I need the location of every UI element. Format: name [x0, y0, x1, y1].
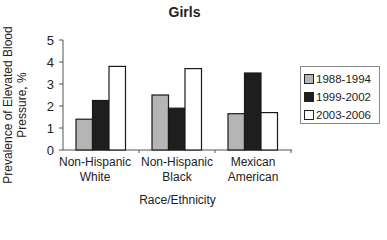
bar-non-hispanic-white-1999-2002 — [93, 101, 110, 151]
category-label-non-hispanic-white: Non-HispanicWhite — [50, 155, 140, 185]
legend-item-2003-2006: 2003-2006 — [304, 106, 379, 124]
bar-non-hispanic-black-1988-1994 — [152, 95, 169, 150]
bar-non-hispanic-white-1988-1994 — [76, 119, 93, 150]
legend-item-1999-2002: 1999-2002 — [304, 88, 379, 106]
y-tick-label: 5 — [47, 33, 54, 48]
legend-swatch — [304, 110, 314, 120]
legend-swatch — [304, 74, 314, 84]
bar-mexican-american-2003-2006 — [261, 113, 278, 150]
legend: 1988-1994 1999-2002 2003-2006 — [300, 66, 380, 124]
bar-non-hispanic-black-2003-2006 — [185, 69, 202, 150]
y-tick-label: 1 — [47, 121, 54, 136]
y-tick-label: 4 — [47, 55, 54, 70]
y-tick-label: 2 — [47, 99, 54, 114]
bar-mexican-american-1988-1994 — [228, 114, 245, 150]
bar-non-hispanic-black-1999-2002 — [169, 108, 186, 150]
legend-swatch — [304, 92, 314, 102]
x-axis-label: Race/Ethnicity — [63, 193, 292, 207]
y-axis-label: Prevalence of Elevated Blood Pressure, % — [1, 25, 35, 185]
category-label-mexican-american: MexicanAmerican — [208, 155, 298, 185]
bar-mexican-american-1999-2002 — [245, 73, 262, 150]
y-tick-label: 3 — [47, 77, 54, 92]
bar-non-hispanic-white-2003-2006 — [109, 66, 126, 150]
legend-item-1988-1994: 1988-1994 — [304, 70, 379, 88]
